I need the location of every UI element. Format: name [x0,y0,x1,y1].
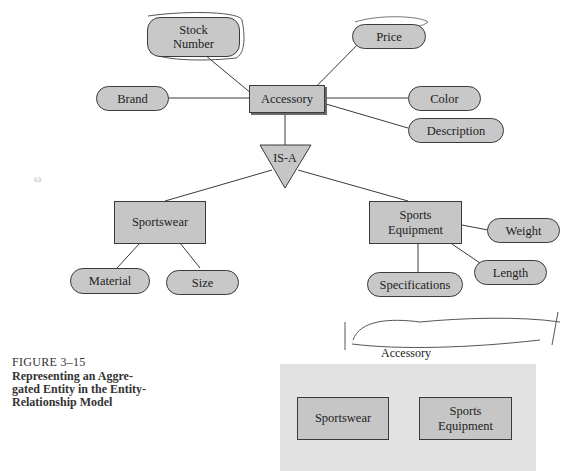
attribute-stock-number: Stock Number [147,17,240,57]
aggregate-member-sports-equipment: Sports Equipment [419,397,512,440]
attribute-label: Number [173,37,214,51]
entity-label: Accessory [261,92,313,107]
stray-mark: ω [34,172,41,184]
attribute-description: Description [408,118,504,143]
entity-label: Sports [400,208,432,223]
attribute-label: Stock [179,23,207,37]
entity-sports-equipment: Sports Equipment [369,201,462,244]
isa-label: IS-A [260,151,310,166]
attribute-label: Description [427,124,485,138]
aggregate-entity-box: Sportswear Sports Equipment [280,364,536,471]
attribute-specifications: Specifications [367,272,463,297]
attribute-label: Specifications [380,278,451,292]
attribute-label: Weight [506,224,542,238]
attribute-label: Color [430,92,458,106]
attribute-color: Color [408,86,481,111]
aggregate-label: Accessory [381,346,431,361]
figure-number: FIGURE 3–15 [12,355,192,370]
attribute-label: Length [493,266,528,280]
entity-accessory: Accessory [249,85,325,113]
attribute-brand: Brand [96,86,169,111]
entity-label: Sportswear [132,215,188,230]
entity-label: Sportswear [315,411,371,426]
entity-label: Equipment [438,419,493,434]
attribute-label: Price [376,30,402,44]
attribute-label: Size [192,276,214,290]
attribute-length: Length [474,260,547,285]
aggregate-member-sportswear: Sportswear [297,397,389,440]
figure-caption: FIGURE 3–15 Representing an Aggre- gated… [12,355,192,409]
figure-title-line: Relationship Model [12,396,192,409]
handwritten-signature [340,318,560,354]
entity-label: Equipment [388,223,443,238]
entity-label: Sports [450,404,482,419]
attribute-label: Material [89,274,131,288]
entity-sportswear: Sportswear [114,201,206,244]
attribute-price: Price [352,24,426,49]
attribute-size: Size [166,270,239,295]
attribute-weight: Weight [487,218,560,243]
attribute-label: Brand [117,92,148,106]
attribute-material: Material [70,268,150,294]
